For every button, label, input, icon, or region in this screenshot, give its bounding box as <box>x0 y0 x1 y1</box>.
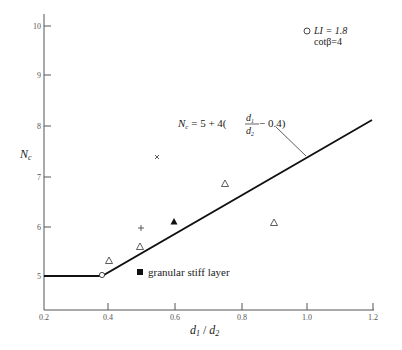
x-axis-label: d1 / d2 <box>190 323 219 338</box>
x-tick-label: 1.0 <box>302 313 312 322</box>
plus-marker-icon <box>138 225 144 231</box>
triangle-open-marker-icon <box>271 219 278 226</box>
granular-label: granular stiff layer <box>148 266 230 278</box>
equation-leader <box>276 127 306 156</box>
x-ticks <box>108 303 373 310</box>
y-tick-label: 7 <box>37 173 41 182</box>
x-tick-label: 0.6 <box>170 313 180 322</box>
triangle-filled-marker-icon <box>171 218 178 225</box>
eq-numerator: d1 <box>246 112 254 124</box>
circle-marker-icon <box>304 28 310 34</box>
x-tick-label: 0.4 <box>103 313 113 322</box>
y-tick-label: 8 <box>37 122 41 131</box>
y-tick-label: 10 <box>33 22 41 31</box>
y-axis-label: Nc <box>19 147 32 162</box>
chart: 10 9 8 7 6 5 0.2 0.4 0.6 0.8 1.0 1.2 Nc … <box>0 0 402 350</box>
fit-line <box>44 120 372 276</box>
svg-text:− 0.4): − 0.4) <box>259 117 286 130</box>
square-filled-marker-icon <box>137 269 143 275</box>
triangle-open-marker-icon <box>137 243 144 250</box>
y-tick-label: 6 <box>37 223 41 232</box>
x-marker-icon <box>155 155 159 159</box>
legend: LI = 1.8 cotβ=4 <box>304 25 347 47</box>
triangle-open-marker-icon <box>222 180 229 187</box>
svg-text:LI = 1.8: LI = 1.8 <box>313 25 347 36</box>
y-tick-label: 9 <box>37 71 41 80</box>
x-tick-label: 0.2 <box>39 313 49 322</box>
x-tick-label: 0.8 <box>237 313 247 322</box>
circle-marker-icon <box>99 272 104 277</box>
triangle-open-marker-icon <box>106 257 113 264</box>
svg-text:Nc = 5 + 4(: Nc = 5 + 4( <box>177 117 227 131</box>
x-tick-label: 1.2 <box>368 313 378 322</box>
equation-annotation: Nc = 5 + 4( d1 d2 − 0.4) <box>177 112 286 137</box>
eq-denominator: d2 <box>246 125 254 137</box>
svg-text:cotβ=4: cotβ=4 <box>314 36 342 47</box>
y-tick-label: 5 <box>37 272 41 281</box>
y-ticks <box>44 26 51 276</box>
